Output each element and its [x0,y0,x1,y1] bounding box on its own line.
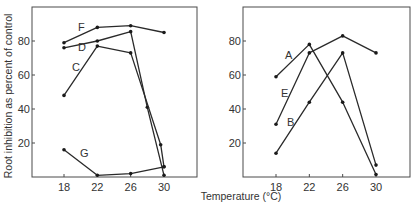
data-point-marker [129,24,133,28]
data-point-marker [62,46,66,50]
data-point-marker [274,151,278,155]
data-point-marker [96,174,100,178]
data-point-marker [96,44,100,48]
x-axis-title: Temperature (°C) [201,190,282,202]
series-label: C [72,61,80,73]
data-point-marker [374,163,378,167]
series-c: C [62,44,166,168]
data-point-marker [129,172,133,176]
data-point-marker [341,100,345,104]
chart-canvas: 1822263020406080FDCG 1822263020406080AEB… [0,0,414,204]
y-tick-label: 80 [18,35,30,47]
y-tick-label: 20 [229,137,241,149]
x-tick-label: 26 [125,181,137,193]
y-tick-label: 80 [229,35,241,47]
x-tick-label: 22 [91,181,103,193]
y-tick-label: 40 [18,103,30,115]
y-tick-label: 60 [18,69,30,81]
data-point-marker [62,41,66,45]
series-label: D [78,41,86,53]
series-e: E [274,34,378,126]
data-point-marker [341,51,345,55]
series-line [64,150,164,176]
data-point-marker [308,51,312,55]
data-point-marker [341,34,345,38]
series-b: B [274,51,378,167]
x-tick-label: 30 [158,181,170,193]
x-tick-label: 30 [370,181,382,193]
series-line [276,53,376,165]
data-point-marker [162,174,166,178]
series-label: B [287,116,294,128]
series-label: E [281,87,288,99]
right-panel: 1822263020406080AEB [229,7,410,193]
y-axis-title: Root inhibition as percent of control [2,14,14,179]
data-point-marker [274,123,278,127]
data-point-marker [62,148,66,152]
plot-frame [32,7,197,177]
y-tick-label: 20 [18,137,30,149]
data-point-marker [129,51,133,55]
y-tick-label: 40 [229,103,241,115]
data-point-marker [308,43,312,47]
plot-frame [243,7,410,177]
series-d: D [62,30,166,177]
data-point-marker [374,51,378,55]
x-tick-label: 26 [337,181,349,193]
series-line [64,32,164,176]
data-point-marker [274,75,278,79]
series-a: A [274,43,378,177]
series-g: G [62,147,166,177]
y-tick-label: 60 [229,69,241,81]
data-point-marker [374,173,378,177]
series-label: F [78,21,85,33]
series-label: A [285,49,293,61]
left-panel: 1822263020406080FDCG [18,7,197,193]
series-line [276,44,376,174]
data-point-marker [96,39,100,43]
x-tick-label: 18 [58,181,70,193]
data-point-marker [308,100,312,104]
data-point-marker [162,31,166,35]
data-point-marker [62,94,66,98]
series-label: G [80,147,89,159]
data-point-marker [159,143,163,147]
data-point-marker [96,26,100,30]
figure: 1822263020406080FDCG 1822263020406080AEB… [0,0,414,204]
data-point-marker [162,165,166,169]
data-point-marker [129,30,133,34]
x-tick-label: 22 [303,181,315,193]
